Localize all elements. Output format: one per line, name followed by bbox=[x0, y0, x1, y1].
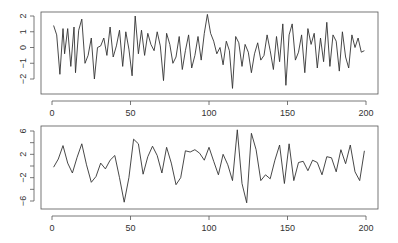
top-series-line bbox=[54, 14, 365, 88]
y-tick-label: 2 bbox=[18, 13, 28, 18]
top-y-axis: −2−1012 bbox=[18, 13, 34, 84]
x-tick-label: 200 bbox=[358, 223, 373, 233]
x-tick-label: 0 bbox=[49, 223, 54, 233]
chart-canvas: 050100150200 −2−1012 050100150200 −6−226 bbox=[0, 0, 398, 243]
top-panel: 050100150200 −2−1012 bbox=[18, 12, 378, 118]
x-tick-label: 0 bbox=[49, 108, 54, 118]
x-tick-label: 200 bbox=[358, 108, 373, 118]
y-tick-label: 2 bbox=[18, 152, 28, 157]
y-tick-label: −6 bbox=[18, 196, 28, 206]
y-tick-label: −1 bbox=[18, 58, 28, 68]
x-tick-label: 50 bbox=[125, 108, 135, 118]
top-x-axis: 050100150200 bbox=[49, 101, 373, 118]
y-tick-label: −2 bbox=[18, 74, 28, 84]
bottom-plot-frame bbox=[41, 126, 378, 209]
y-tick-label: −2 bbox=[18, 173, 28, 183]
bottom-panel: 050100150200 −6−226 bbox=[18, 126, 378, 233]
bottom-x-axis: 050100150200 bbox=[49, 216, 373, 233]
x-tick-label: 150 bbox=[280, 108, 295, 118]
y-tick-label: 0 bbox=[18, 45, 28, 50]
x-tick-label: 150 bbox=[280, 223, 295, 233]
y-tick-label: 1 bbox=[18, 29, 28, 34]
y-tick-label: 6 bbox=[18, 128, 28, 133]
x-tick-label: 100 bbox=[201, 108, 216, 118]
bottom-series-line bbox=[54, 130, 365, 203]
bottom-y-axis: −6−226 bbox=[18, 128, 34, 206]
x-tick-label: 50 bbox=[125, 223, 135, 233]
x-tick-label: 100 bbox=[201, 223, 216, 233]
